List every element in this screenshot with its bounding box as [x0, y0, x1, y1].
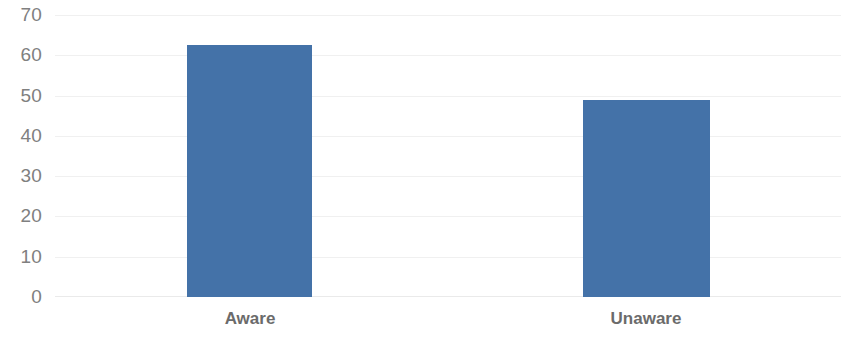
gridline-50	[55, 96, 841, 97]
x-tick-label-unaware: Unaware	[611, 309, 682, 329]
bar-chart: 70 60 50 40 30 20 10 0 Aware Unaware	[0, 0, 841, 337]
gridline-40	[55, 136, 841, 137]
y-tick-label-60: 60	[20, 44, 42, 66]
y-tick-label-70: 70	[20, 4, 42, 26]
gridline-70	[55, 15, 841, 16]
bar-aware[interactable]	[187, 45, 312, 297]
y-axis-tick-labels: 70 60 50 40 30 20 10 0	[0, 0, 55, 337]
y-tick-label-50: 50	[20, 85, 42, 107]
gridline-0	[55, 296, 841, 297]
y-tick-label-0: 0	[31, 286, 42, 308]
gridline-10	[55, 257, 841, 258]
y-tick-label-20: 20	[20, 205, 42, 227]
gridline-20	[55, 216, 841, 217]
y-tick-label-10: 10	[20, 246, 42, 268]
y-tick-label-40: 40	[20, 125, 42, 147]
gridline-30	[55, 176, 841, 177]
bar-unaware[interactable]	[583, 100, 710, 297]
gridline-60	[55, 55, 841, 56]
plot-area	[55, 15, 841, 297]
x-tick-label-aware: Aware	[225, 309, 276, 329]
x-axis-tick-labels: Aware Unaware	[55, 303, 841, 337]
y-tick-label-30: 30	[20, 165, 42, 187]
